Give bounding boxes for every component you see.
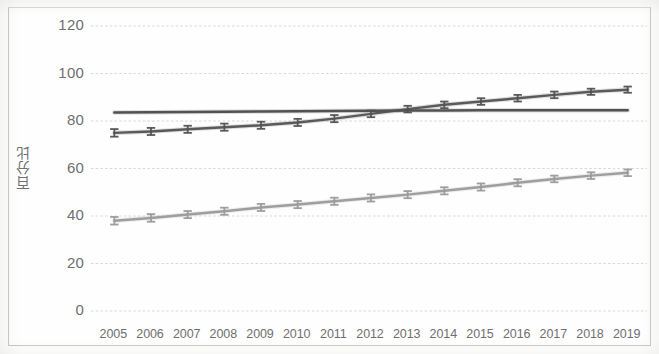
x-tick-label: 2014: [425, 327, 461, 341]
x-tick-label: 2015: [462, 327, 498, 341]
line-chart-plot: [9, 8, 652, 347]
y-tick-label: 40: [44, 206, 84, 223]
x-tick-label: 2018: [572, 327, 608, 341]
x-tick-label: 2012: [352, 327, 388, 341]
x-tick-label: 2017: [535, 327, 571, 341]
x-tick-label: 2009: [242, 327, 278, 341]
y-tick-label: 0: [44, 301, 84, 318]
x-tick-label: 2013: [389, 327, 425, 341]
x-tick-label: 2005: [95, 327, 131, 341]
y-tick-label: 120: [44, 16, 84, 33]
y-tick-label: 20: [44, 254, 84, 271]
x-tick-label: 2008: [205, 327, 241, 341]
y-tick-label: 60: [44, 159, 84, 176]
x-tick-label: 2007: [169, 327, 205, 341]
y-tick-label: 80: [44, 111, 84, 128]
x-tick-label: 2016: [499, 327, 535, 341]
y-tick-label: 100: [44, 64, 84, 81]
x-tick-label: 2006: [132, 327, 168, 341]
chart-frame: [8, 7, 651, 346]
x-tick-label: 2011: [315, 327, 351, 341]
x-tick-label: 2010: [279, 327, 315, 341]
x-tick-label: 2019: [609, 327, 645, 341]
y-axis-title: 百分比: [14, 145, 34, 190]
